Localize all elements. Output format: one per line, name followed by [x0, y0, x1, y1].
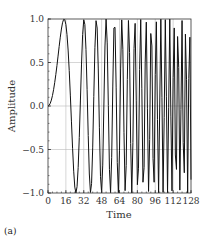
- x-tick-label: 80: [132, 196, 144, 206]
- y-tick-label: −1.0: [22, 188, 44, 198]
- x-tick-label: 0: [45, 196, 51, 206]
- chirp-chart: 0163248648096112128 −1.0−0.50.00.51.0 Ti…: [0, 0, 206, 242]
- y-axis-ticks: −1.0−0.50.00.51.0: [22, 14, 51, 198]
- x-tick-label: 96: [150, 196, 162, 206]
- y-tick-label: 1.0: [30, 14, 45, 24]
- panel-label: (a): [4, 226, 16, 236]
- x-tick-label: 16: [60, 196, 72, 206]
- x-tick-label: 112: [165, 196, 182, 206]
- y-tick-label: 0.5: [30, 58, 45, 68]
- y-tick-label: −0.5: [22, 145, 44, 155]
- x-tick-label: 128: [182, 196, 199, 206]
- x-axis-ticks: 0163248648096112128: [45, 190, 200, 206]
- x-axis-title: Time: [106, 209, 131, 220]
- x-tick-label: 64: [114, 196, 126, 206]
- x-tick-label: 32: [78, 196, 89, 206]
- x-tick-label: 48: [96, 196, 108, 206]
- y-tick-label: 0.0: [30, 101, 45, 111]
- y-axis-title: Amplitude: [6, 80, 17, 133]
